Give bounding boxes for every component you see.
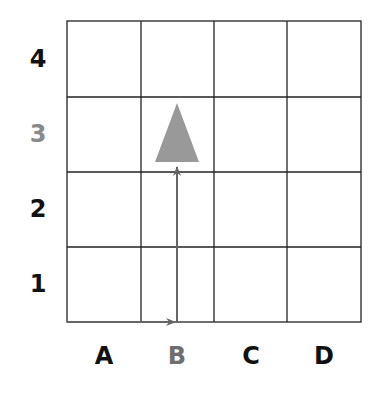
grid-diagram: 4 3 2 1 A B C D [0, 0, 383, 394]
column-label-a: A [95, 342, 114, 370]
row-label-3: 3 [30, 120, 47, 148]
grid [67, 21, 361, 322]
row-label-4: 4 [30, 45, 47, 73]
column-label-d: D [314, 342, 334, 370]
column-labels: A B C D [95, 342, 334, 370]
row-label-2: 2 [30, 195, 47, 223]
column-label-c: C [242, 342, 260, 370]
triangle-marker-icon [155, 103, 199, 162]
row-label-1: 1 [30, 270, 47, 298]
row-labels: 4 3 2 1 [30, 45, 47, 298]
column-label-b: B [168, 342, 186, 370]
path-arrows [67, 167, 177, 322]
